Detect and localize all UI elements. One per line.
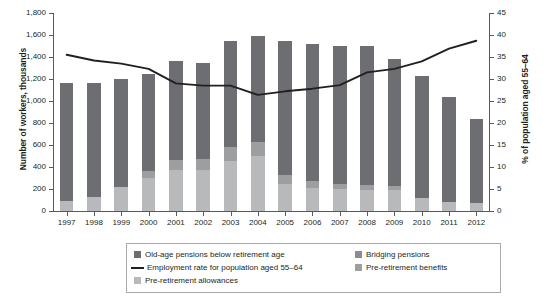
- x-axis-tick: [312, 212, 313, 216]
- y-axis-right-tick: [490, 35, 494, 36]
- legend-color-swatch-icon: [134, 277, 141, 284]
- x-axis-tick: [285, 212, 286, 216]
- y-axis-left-tick: [49, 211, 53, 212]
- x-axis-line: [53, 211, 490, 212]
- legend-column-right: Bridging pensionsPre-retirement benefits: [355, 248, 505, 274]
- y-axis-left-tick-label: 600: [4, 141, 46, 149]
- y-axis-left-tick-label: 400: [4, 163, 46, 171]
- y-axis-left-tick-label: 1,800: [4, 9, 46, 17]
- y-axis-right-title: % of population aged 55–64: [520, 34, 530, 184]
- x-axis-tick: [394, 212, 395, 216]
- y-axis-right-tick-label: 0: [497, 207, 517, 215]
- y-axis-right-tick-label: 45: [497, 9, 517, 17]
- y-axis-right-tick: [490, 211, 494, 212]
- employment-rate-line: [53, 13, 490, 211]
- y-axis-right-tick: [490, 145, 494, 146]
- x-axis-tick: [231, 212, 232, 216]
- chart-legend: Old-age pensions below retirement ageEmp…: [126, 243, 501, 293]
- legend-item[interactable]: Employment rate for population aged 55–6…: [134, 261, 349, 274]
- x-axis-tick: [121, 212, 122, 216]
- legend-item-label: Bridging pensions: [366, 250, 430, 259]
- y-axis-right-tick: [490, 13, 494, 14]
- legend-item-label: Pre-retirement benefits: [366, 263, 447, 272]
- y-axis-right-tick-label: 30: [497, 75, 517, 83]
- y-axis-left-tick-label: 800: [4, 119, 46, 127]
- y-axis-right-tick-label: 5: [497, 185, 517, 193]
- x-axis-tick-label: 2012: [456, 218, 496, 227]
- legend-item-label: Old-age pensions below retirement age: [145, 250, 285, 259]
- y-axis-right-tick-label: 15: [497, 141, 517, 149]
- legend-color-swatch-icon: [355, 251, 362, 258]
- y-axis-right-tick: [490, 79, 494, 80]
- y-axis-left-tick-label: 200: [4, 185, 46, 193]
- x-axis-tick: [94, 212, 95, 216]
- legend-item[interactable]: Old-age pensions below retirement age: [134, 248, 349, 261]
- y-axis-right-tick-label: 25: [497, 97, 517, 105]
- x-axis-tick: [67, 212, 68, 216]
- y-axis-right-tick: [490, 123, 494, 124]
- x-axis-tick: [367, 212, 368, 216]
- legend-item-label: Pre-retirement allowances: [145, 276, 238, 285]
- x-axis-tick: [176, 212, 177, 216]
- x-axis-tick: [422, 212, 423, 216]
- x-axis-tick: [258, 212, 259, 216]
- y-axis-left-tick-label: 0: [4, 207, 46, 215]
- legend-item[interactable]: Bridging pensions: [355, 248, 505, 261]
- y-axis-right-tick: [490, 57, 494, 58]
- y-axis-left-tick-label: 1,200: [4, 75, 46, 83]
- x-axis-tick: [203, 212, 204, 216]
- x-axis-tick: [476, 212, 477, 216]
- x-axis-tick: [340, 212, 341, 216]
- legend-color-swatch-icon: [134, 251, 141, 258]
- employment-rate-polyline: [67, 41, 477, 95]
- y-axis-left-tick-label: 1,400: [4, 53, 46, 61]
- y-axis-right-tick: [490, 189, 494, 190]
- y-axis-right-tick: [490, 167, 494, 168]
- y-axis-right-tick-label: 10: [497, 163, 517, 171]
- x-axis-tick: [449, 212, 450, 216]
- y-axis-right-tick-label: 35: [497, 53, 517, 61]
- legend-item[interactable]: Pre-retirement benefits: [355, 261, 505, 274]
- y-axis-right-tick: [490, 101, 494, 102]
- y-axis-left-tick-label: 1,600: [4, 31, 46, 39]
- y-axis-right-tick-label: 40: [497, 31, 517, 39]
- x-axis-tick: [149, 212, 150, 216]
- legend-column-left: Old-age pensions below retirement ageEmp…: [134, 248, 349, 287]
- legend-color-swatch-icon: [355, 264, 362, 271]
- legend-item-label: Employment rate for population aged 55–6…: [147, 263, 303, 272]
- y-axis-left-tick-label: 1,000: [4, 97, 46, 105]
- legend-item[interactable]: Pre-retirement allowances: [134, 274, 349, 287]
- chart-container: Number of workers, thousands % of popula…: [0, 0, 543, 301]
- legend-line-swatch-icon: [131, 267, 144, 269]
- y-axis-right-tick-label: 20: [497, 119, 517, 127]
